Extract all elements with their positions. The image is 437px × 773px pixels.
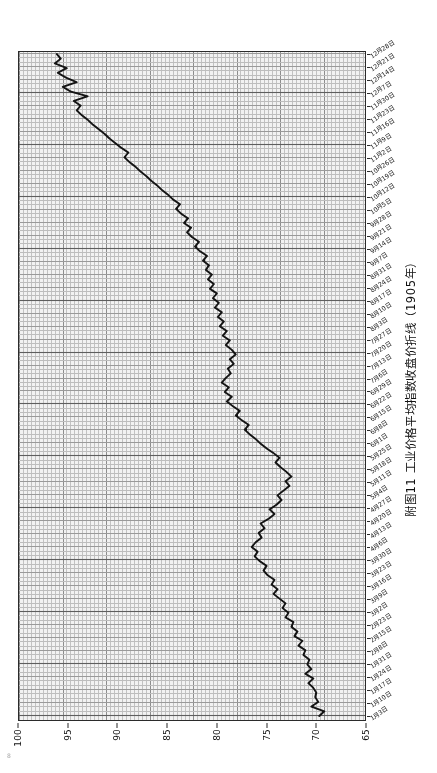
y-tick-mark: [266, 723, 267, 728]
y-tick-mark: [67, 723, 68, 728]
plot-area: [18, 51, 366, 721]
y-tick-label: 70: [311, 729, 321, 741]
chart-line-series: [19, 51, 366, 720]
y-tick-label: 95: [63, 729, 73, 741]
y-tick-mark: [316, 723, 317, 728]
figure-caption: 附图11 工业价格平均指数收盘价折线（1905年）: [402, 0, 418, 773]
figure: 10095908580757065 1月3日1月10日1月17日1月24日1月3…: [0, 0, 437, 773]
y-tick-mark: [216, 723, 217, 728]
y-tick-label: 75: [262, 729, 272, 741]
y-tick-label: 100: [13, 729, 23, 747]
y-axis: 10095908580757065: [18, 723, 366, 773]
y-tick-mark: [167, 723, 168, 728]
x-axis: 1月3日1月10日1月17日1月24日1月31日2月8日2月15日2月23日3月…: [368, 51, 434, 721]
y-tick-mark: [366, 723, 367, 728]
y-tick-label: 90: [112, 729, 122, 741]
rotated-figure-stage: 10095908580757065 1月3日1月10日1月17日1月24日1月3…: [0, 0, 437, 773]
y-tick-label: 80: [212, 729, 222, 741]
page-number: 8: [7, 752, 11, 759]
y-tick-label: 65: [361, 729, 371, 741]
y-tick-mark: [117, 723, 118, 728]
y-tick-label: 85: [162, 729, 172, 741]
y-tick-mark: [18, 723, 19, 728]
